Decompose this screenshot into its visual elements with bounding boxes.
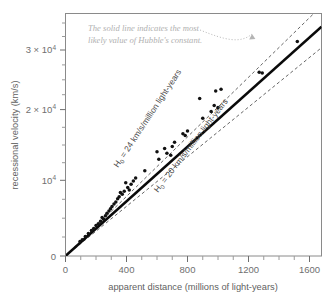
data-point	[87, 232, 91, 236]
data-point	[120, 192, 124, 196]
data-point	[114, 200, 118, 204]
x-tick-label-0: 0	[63, 264, 68, 275]
data-point	[155, 150, 159, 154]
annotation-line-2: likely value of Hubble's constant.	[88, 35, 202, 45]
data-point	[124, 181, 128, 185]
solid-line-annotation: The solid line indicates the most likely…	[88, 23, 202, 45]
data-point	[296, 40, 300, 44]
data-point	[171, 145, 175, 149]
x-axis-tick-labels: 0 400 800 1200 1600	[63, 264, 320, 275]
data-point	[134, 176, 138, 180]
data-point	[132, 179, 136, 183]
hubble-diagram-figure: 0 104 2 × 104 3 × 104	[0, 0, 333, 297]
x-tick-label-800: 800	[180, 264, 196, 275]
data-point	[165, 151, 169, 155]
upper-bound-label: H0 = 24 km/s/million light-years	[111, 67, 184, 169]
data-point	[163, 147, 167, 151]
annotation-line-1: The solid line indicates the most	[88, 23, 200, 33]
data-point	[99, 220, 103, 224]
annotation-leader-line	[200, 30, 252, 40]
svg-text:H0 = 24 km/s/million light-yea: H0 = 24 km/s/million light-years	[111, 67, 184, 169]
data-point	[183, 134, 187, 138]
y-tick-label-30000: 3 × 104	[26, 44, 57, 56]
y-axis-title: recessional velocity (km/s)	[10, 80, 20, 189]
x-tick-label-1200: 1200	[238, 264, 259, 275]
annotation-leader-arrowhead	[249, 34, 255, 40]
y-tick-label-0: 0	[51, 251, 56, 262]
data-point	[117, 195, 121, 199]
chart-canvas: 0 104 2 × 104 3 × 104	[0, 0, 333, 297]
data-point	[219, 87, 223, 91]
data-point	[198, 97, 202, 101]
data-point	[260, 71, 264, 75]
x-axis-title: apparent distance (millions of light-yea…	[108, 282, 278, 292]
y-axis-tick-labels: 0 104 2 × 104 3 × 104	[26, 44, 57, 262]
data-point	[173, 140, 177, 144]
data-point	[81, 238, 85, 242]
data-point	[186, 129, 190, 133]
data-point	[157, 157, 161, 161]
y-axis-minor-ticks	[62, 23, 66, 237]
x-axis-major-ticks	[66, 256, 310, 262]
data-point	[92, 227, 96, 231]
data-point	[257, 70, 261, 74]
x-tick-label-400: 400	[119, 264, 135, 275]
data-point	[102, 217, 106, 221]
data-point	[169, 154, 173, 158]
lower-bound-label: H0 = 20 km/s/million light-years	[152, 97, 231, 195]
x-tick-label-1600: 1600	[299, 264, 320, 275]
y-tick-label-10000: 104	[42, 174, 57, 186]
data-point	[128, 188, 132, 192]
data-point	[84, 235, 88, 239]
lower-bound-line	[66, 48, 322, 256]
data-point	[214, 89, 218, 93]
y-tick-label-20000: 2 × 104	[26, 103, 57, 115]
y-axis-major-ticks	[60, 50, 66, 256]
data-point	[122, 190, 126, 194]
data-point	[129, 183, 133, 187]
data-point	[143, 169, 147, 173]
svg-text:H0 = 20 km/s/million light-yea: H0 = 20 km/s/million light-years	[152, 97, 231, 195]
